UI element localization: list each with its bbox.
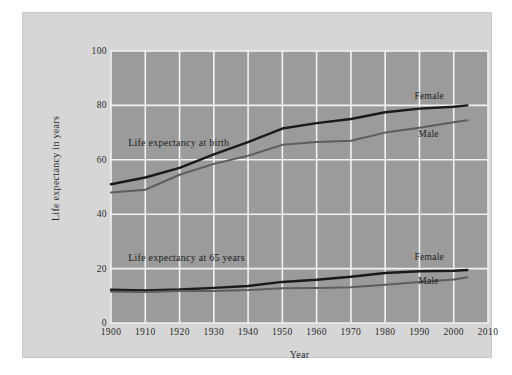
x-axis-title: Year [111, 349, 488, 360]
y-axis-tick-labels: 020406080100 [67, 51, 107, 323]
y-tick-100: 100 [73, 46, 107, 56]
plot-area: Life expectancy at birth Life expectancy… [111, 51, 488, 323]
y-axis-title: Life expectancy in years [50, 89, 61, 249]
series-label-at65-male: Male [418, 276, 439, 286]
chart-card: 020406080100 Life expectancy at birth Li… [22, 12, 492, 358]
x-axis-tick-labels: 1900191019201930194019501960197019801990… [111, 327, 488, 345]
series-label-birth-male: Male [418, 129, 439, 139]
y-tick-40: 40 [73, 209, 107, 219]
series-label-at65-female: Female [415, 252, 444, 262]
y-tick-60: 60 [73, 155, 107, 165]
chart-figure: 020406080100 Life expectancy at birth Li… [0, 0, 512, 375]
series-label-birth-female: Female [415, 91, 444, 101]
y-tick-80: 80 [73, 100, 107, 110]
x-tick-2010: 2010 [466, 327, 510, 337]
y-tick-20: 20 [73, 264, 107, 274]
annotation-life-expectancy-at-65: Life expectancy at 65 years [128, 252, 245, 263]
annotation-life-expectancy-at-birth: Life expectancy at birth [128, 137, 229, 148]
